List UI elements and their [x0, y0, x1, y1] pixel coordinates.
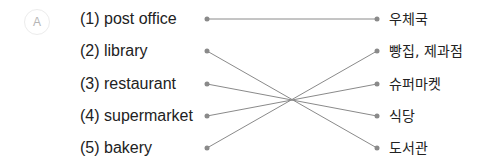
right-dot-2[interactable]: [375, 49, 380, 54]
right-item-post-office-kr[interactable]: 우체국: [389, 9, 428, 29]
left-item-post-office[interactable]: (1) post office: [80, 9, 177, 29]
left-item-bakery[interactable]: (5) bakery: [80, 138, 152, 158]
right-item-bakery-kr[interactable]: 빵집, 제과점: [389, 41, 463, 61]
left-dot-1[interactable]: [205, 17, 210, 22]
left-item-supermarket[interactable]: (4) supermarket: [80, 106, 193, 126]
line-restaurant-to-restaurant-kr: [207, 84, 377, 116]
right-item-supermarket-kr[interactable]: 슈퍼마켓: [389, 74, 441, 94]
section-label: A: [33, 15, 41, 29]
right-dot-3[interactable]: [375, 82, 380, 87]
line-supermarket-to-supermarket-kr: [207, 84, 377, 116]
right-dot-1[interactable]: [375, 17, 380, 22]
left-dot-5[interactable]: [205, 146, 210, 151]
right-dot-4[interactable]: [375, 114, 380, 119]
left-dot-3[interactable]: [205, 82, 210, 87]
left-item-library[interactable]: (2) library: [80, 41, 148, 61]
line-library-to-library-kr: [207, 51, 377, 148]
section-badge: A: [24, 9, 50, 35]
right-dot-5[interactable]: [375, 146, 380, 151]
left-dot-4[interactable]: [205, 114, 210, 119]
line-bakery-to-bakery-kr: [207, 51, 377, 148]
right-item-library-kr[interactable]: 도서관: [389, 138, 428, 158]
left-item-restaurant[interactable]: (3) restaurant: [80, 74, 176, 94]
left-dot-2[interactable]: [205, 49, 210, 54]
right-item-restaurant-kr[interactable]: 식당: [389, 106, 415, 126]
